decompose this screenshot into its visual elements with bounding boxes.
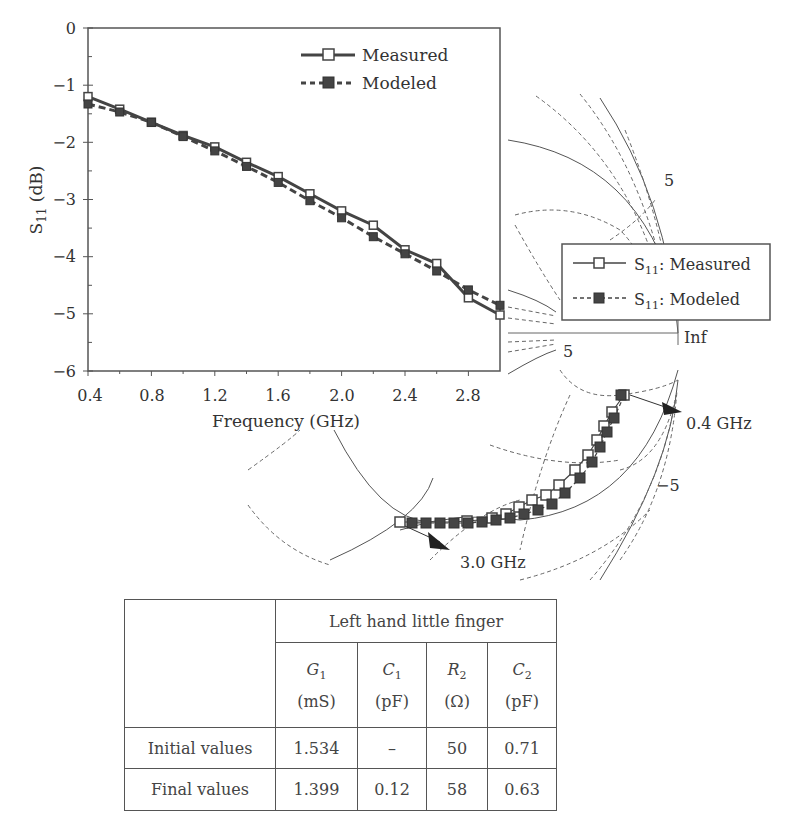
- annotation-0.4ghz: 0.4 GHz: [686, 414, 752, 433]
- svg-text:Measured: Measured: [362, 45, 448, 65]
- cell: 1.534: [276, 728, 358, 769]
- legend-open-square-icon: [323, 49, 334, 60]
- cell: 1.399: [276, 769, 358, 811]
- annotation-3.0ghz: 3.0 GHz: [460, 553, 526, 572]
- svg-text:−4: −4: [52, 247, 76, 266]
- row-label: Final values: [125, 769, 276, 811]
- cell: –: [358, 728, 427, 769]
- table-group-header: Left hand little finger: [276, 600, 557, 643]
- x-tick-labels: 0.4 0.8 1.2 1.6 2.0 2.4 2.8: [77, 386, 480, 405]
- svg-text:−2: −2: [52, 133, 76, 152]
- svg-text:2.8: 2.8: [455, 386, 480, 405]
- svg-text:0.8: 0.8: [139, 386, 164, 405]
- column-header-r2: R2(Ω): [427, 643, 488, 728]
- figure: 0.4 GHz 3.0 GHz 5 5 −5 Inf S11: Measured…: [0, 0, 791, 590]
- y-axis-label: S11 (dB): [26, 166, 49, 235]
- svg-text:2.4: 2.4: [392, 386, 417, 405]
- smith-arc: [330, 478, 433, 560]
- svg-text:−6: −6: [52, 362, 76, 381]
- column-header-c1: C1(pF): [358, 643, 427, 728]
- smith-arc: [334, 430, 430, 522]
- line-chart: 0 −1 −2 −3 −4 −5 −6 0.4 0.8 1.2 1.6 2.0 …: [26, 19, 504, 431]
- arrow-icon: [662, 402, 682, 415]
- svg-text:2.0: 2.0: [329, 386, 354, 405]
- smith-label-inf: Inf: [684, 328, 708, 347]
- column-header-c2: C2(pF): [488, 643, 557, 728]
- svg-text:0: 0: [66, 19, 76, 38]
- smith-arc: [508, 350, 556, 374]
- cell: 50: [427, 728, 488, 769]
- svg-text:1.2: 1.2: [202, 386, 227, 405]
- table-row: Initial values 1.534 – 50 0.71: [125, 728, 557, 769]
- y-tick-labels: 0 −1 −2 −3 −4 −5 −6: [52, 19, 76, 381]
- svg-text:−5: −5: [52, 304, 76, 323]
- cell: 0.71: [488, 728, 557, 769]
- column-header-g1: G1(mS): [276, 643, 358, 728]
- cell: 0.12: [358, 769, 427, 811]
- row-label: Initial values: [125, 728, 276, 769]
- svg-text:1.6: 1.6: [265, 386, 290, 405]
- legend-filled-square-icon: [323, 77, 334, 88]
- parameter-table: Left hand little finger G1(mS) C1(pF) R2…: [124, 599, 557, 811]
- svg-text:−3: −3: [52, 190, 76, 209]
- table-corner-cell: [125, 600, 276, 728]
- svg-text:−1: −1: [52, 76, 76, 95]
- smith-annotation-start: 0.4 GHz: [630, 395, 752, 433]
- x-axis-label: Frequency (GHz): [212, 411, 360, 431]
- smith-label-neg-5: −5: [656, 476, 680, 495]
- smith-annotation-end: 3.0 GHz: [405, 526, 526, 572]
- svg-text:0.4: 0.4: [77, 386, 102, 405]
- cell: 0.63: [488, 769, 557, 811]
- table-row: Final values 1.399 0.12 58 0.63: [125, 769, 557, 811]
- smith-legend: S11: Measured S11: Modeled: [562, 244, 770, 320]
- smith-label-mid-5: 5: [563, 342, 573, 361]
- smith-label-top-5: 5: [664, 171, 674, 190]
- plot-area: [88, 28, 500, 371]
- legend-open-square-icon: [594, 258, 604, 268]
- smith-trajectory: [395, 390, 629, 528]
- legend-filled-square-icon: [594, 293, 604, 303]
- cell: 58: [427, 769, 488, 811]
- arrow-icon: [428, 532, 450, 550]
- svg-text:Modeled: Modeled: [362, 73, 437, 93]
